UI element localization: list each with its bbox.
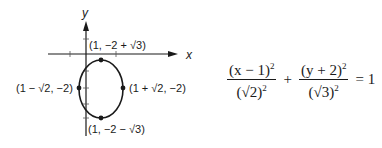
fraction-y-denominator: (√3)2	[307, 80, 341, 101]
num1-exponent: 2	[270, 61, 275, 71]
fraction-y: (y + 2)2 (√3)2	[299, 58, 348, 101]
point-top	[99, 58, 104, 63]
fraction-x-numerator: (x − 1)2	[227, 58, 276, 80]
x-axis-arrow-icon	[168, 51, 178, 57]
ellipse-equation: (x − 1)2 (√2)2 + (y + 2)2 (√3)2 = 1	[224, 58, 375, 101]
equals-sign: =	[355, 71, 363, 88]
label-top-point: (1, −2 + √3)	[89, 39, 146, 51]
x-axis-label: x	[185, 48, 193, 62]
num2-text: (y + 2)	[301, 62, 342, 78]
y-axis-arrow-icon	[83, 21, 89, 31]
den2-text: (√3)	[309, 84, 335, 100]
label-left-point: (1 − √2, −2)	[16, 82, 73, 94]
fraction-x: (x − 1)2 (√2)2	[227, 58, 276, 101]
equation-rhs: 1	[368, 71, 376, 88]
point-right	[121, 86, 126, 91]
label-right-point: (1 + √2, −2)	[129, 82, 186, 94]
point-bottom	[99, 116, 104, 121]
fraction-y-numerator: (y + 2)2	[299, 58, 348, 80]
y-axis-label: y	[81, 6, 89, 20]
plus-sign: +	[283, 71, 291, 88]
label-bottom-point: (1, −2 − √3)	[88, 123, 145, 135]
fraction-x-denominator: (√2)2	[235, 80, 269, 101]
den1-text: (√2)	[237, 84, 263, 100]
den1-exponent: 2	[262, 83, 267, 93]
ellipse-graph: x y (1, −2 + √3) (1, −2 − √3) (1 − √2, −…	[0, 0, 200, 148]
den2-exponent: 2	[334, 83, 339, 93]
point-left	[77, 86, 82, 91]
num1-text: (x − 1)	[229, 62, 270, 78]
num2-exponent: 2	[342, 61, 347, 71]
